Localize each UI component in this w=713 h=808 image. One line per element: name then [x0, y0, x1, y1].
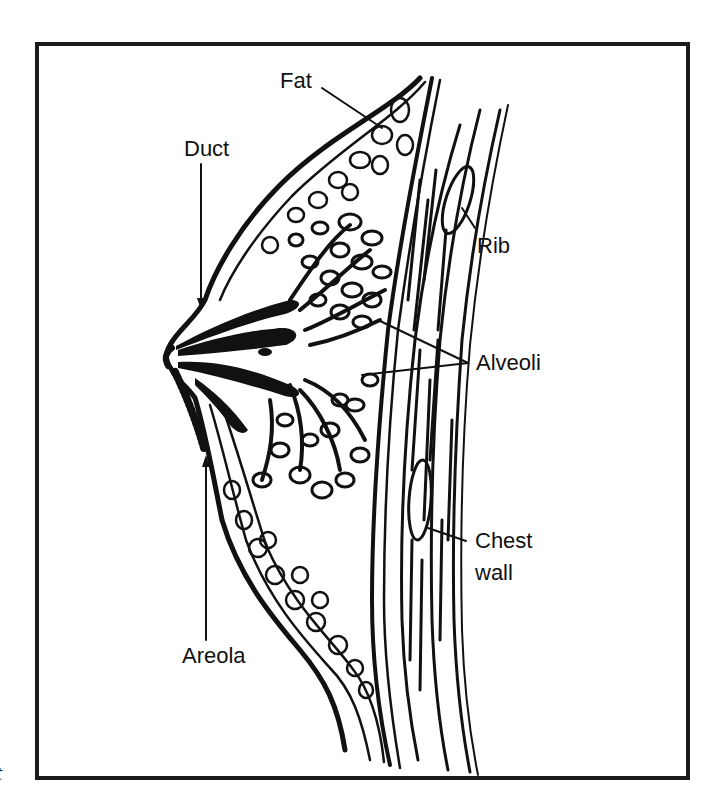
label-fat: Fat	[280, 70, 312, 92]
label-alveoli: Alveoli	[476, 352, 541, 374]
chest-wall-line	[372, 78, 432, 765]
label-duct: Duct	[184, 138, 229, 160]
label-chest-wall-line2: wall	[475, 562, 513, 584]
leader-alveoli-1	[378, 320, 468, 363]
nipple	[166, 348, 172, 366]
leader-alveoli-2	[362, 363, 468, 375]
label-areola: Areola	[182, 645, 246, 667]
label-chest-wall-line1: Chest	[475, 530, 532, 552]
leader-fat	[322, 88, 382, 128]
breast-anatomy-illustration	[0, 0, 713, 808]
label-rib: Rib	[477, 235, 510, 257]
